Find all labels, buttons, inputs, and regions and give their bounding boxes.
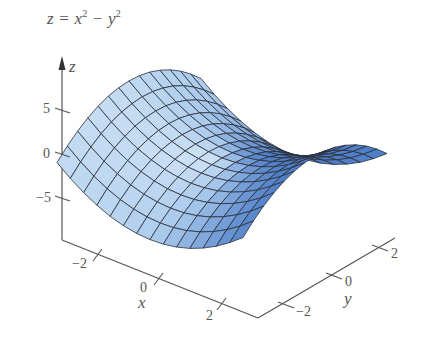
x-tick-2	[217, 298, 226, 310]
x-tick-label-neg2: −2	[72, 256, 87, 271]
x-tick-label-2: 2	[206, 308, 213, 323]
z-axis-arrow-icon	[59, 56, 66, 70]
figure: z = x2 − y2	[0, 0, 424, 342]
y-tick-label-0: 0	[345, 274, 352, 289]
y-tick-label-2: 2	[391, 246, 398, 261]
surface-plot: 5 0 −5 −2 0 2 −2 0 2 z x y	[0, 0, 424, 342]
z-tick-label-0: 0	[43, 146, 50, 161]
z-axis-label: z	[68, 57, 76, 76]
y-tick-label-neg2: −2	[296, 304, 311, 319]
x-axis-line	[62, 240, 258, 318]
x-axis-label: x	[137, 293, 146, 312]
y-axis-line	[258, 238, 395, 318]
y-axis-label: y	[342, 289, 352, 308]
x-tick-0	[154, 273, 163, 285]
z-tick-label-5: 5	[43, 101, 50, 116]
surface-mesh	[57, 70, 387, 249]
chart-title: z = x2 − y2	[47, 8, 121, 29]
z-tick-label-neg5: −5	[36, 190, 51, 205]
